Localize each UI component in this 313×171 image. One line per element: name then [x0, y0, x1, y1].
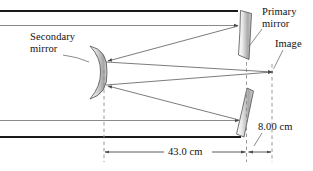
- figure-canvas: Secondary mirror Primary mirror Image 43…: [0, 0, 313, 171]
- converging-ray-group: [106, 62, 272, 85]
- incoming-ray-group-bottom: [0, 121, 241, 138]
- label-secondary-mirror: Secondary mirror: [30, 31, 75, 54]
- dimension-label-43cm: 43.0 cm: [168, 146, 203, 158]
- dimension-label-8cm: 8.00 cm: [258, 121, 293, 133]
- secondary-mirror: [90, 46, 107, 99]
- leader-line-image: [274, 50, 284, 69]
- primary-mirror-upper: [239, 11, 252, 60]
- label-secondary-mirror-line2: mirror: [30, 43, 75, 55]
- label-primary-mirror: Primary mirror: [262, 6, 297, 29]
- ray-secondary-lower-to-image: [106, 72, 272, 85]
- ray-primary-upper-to-secondary: [108, 26, 238, 61]
- label-image: Image: [275, 38, 302, 50]
- ray-primary-lower-to-secondary: [108, 86, 239, 120]
- ray-secondary-upper-to-image: [106, 62, 272, 72]
- primary-mirror-lower: [237, 88, 254, 137]
- incoming-ray-group-top: [0, 11, 238, 26]
- label-primary-mirror-line1: Primary: [262, 6, 297, 18]
- label-secondary-mirror-line1: Secondary: [30, 31, 75, 43]
- leader-line-distance-image: [254, 133, 262, 146]
- label-primary-mirror-line2: mirror: [262, 18, 297, 30]
- reflected-ray-group: [108, 26, 239, 120]
- leader-line-secondary-mirror: [63, 55, 89, 62]
